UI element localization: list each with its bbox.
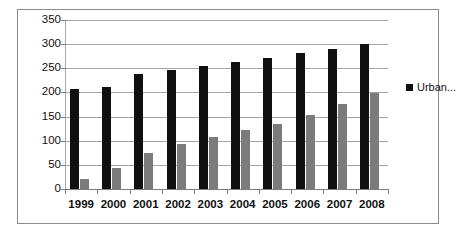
bar-group <box>65 20 97 189</box>
bar-group <box>291 20 323 189</box>
bar <box>338 104 347 189</box>
y-axis-tick-label: 100 <box>42 135 61 147</box>
x-axis-tick <box>291 189 292 194</box>
x-axis-tick-label: 2000 <box>101 199 127 211</box>
x-axis-tick-label: 2005 <box>262 199 288 211</box>
plot-area <box>65 20 388 189</box>
x-axis-tick <box>227 189 228 194</box>
x-axis-tick-label: 2004 <box>230 199 256 211</box>
bar-group <box>227 20 259 189</box>
x-axis-tick <box>323 189 324 194</box>
x-axis-tick-label: 2008 <box>359 199 385 211</box>
bar <box>328 49 337 190</box>
bar <box>144 153 153 189</box>
bar <box>370 93 379 189</box>
x-axis-tick <box>356 189 357 194</box>
bar <box>209 137 218 189</box>
y-axis-labels: 050100150200250300350 <box>31 20 61 189</box>
x-axis-tick-label: 2006 <box>294 199 320 211</box>
bar <box>134 74 143 189</box>
chart-legend: Urban... <box>406 82 456 93</box>
bar <box>177 144 186 189</box>
x-axis-tick-label: 2003 <box>198 199 224 211</box>
x-axis-tick <box>259 189 260 194</box>
y-axis-tick-label: 300 <box>42 38 61 50</box>
y-axis-tick-label: 350 <box>42 14 61 26</box>
x-axis-tick-label: 2001 <box>133 199 159 211</box>
bar <box>80 179 89 189</box>
chart-frame: 050100150200250300350 199920002001200220… <box>17 9 439 224</box>
x-axis-tick-label: 1999 <box>68 199 94 211</box>
bar-group <box>162 20 194 189</box>
bar <box>112 168 121 189</box>
y-axis-tick-label: 150 <box>42 111 61 123</box>
bar <box>167 70 176 189</box>
bar-group <box>356 20 388 189</box>
x-axis-tick-label: 2002 <box>165 199 191 211</box>
y-axis-tick-label: 200 <box>42 87 61 99</box>
x-axis-tick <box>162 189 163 194</box>
y-axis-tick-label: 50 <box>48 159 61 171</box>
bar <box>199 66 208 189</box>
bar <box>70 89 79 189</box>
legend-entry-label: Urban... <box>417 82 456 93</box>
x-axis-tick <box>65 189 66 194</box>
bar-group <box>130 20 162 189</box>
bar <box>241 130 250 189</box>
bar-group <box>97 20 129 189</box>
bar <box>306 115 315 189</box>
bar <box>231 62 240 189</box>
bar-group <box>194 20 226 189</box>
x-axis-tick <box>97 189 98 194</box>
bar <box>263 58 272 189</box>
bar-group <box>323 20 355 189</box>
bar <box>296 53 305 189</box>
legend-swatch-icon <box>406 84 413 91</box>
x-axis-labels: 1999200020012002200320042005200620072008 <box>65 199 388 215</box>
bar <box>273 124 282 189</box>
bar-group <box>259 20 291 189</box>
x-axis-tick <box>194 189 195 194</box>
x-axis-tick <box>388 189 389 194</box>
bar <box>102 87 111 189</box>
x-axis-tick-label: 2007 <box>327 199 353 211</box>
y-axis-tick-label: 250 <box>42 63 61 75</box>
bar <box>360 44 369 189</box>
x-axis-tick <box>130 189 131 194</box>
